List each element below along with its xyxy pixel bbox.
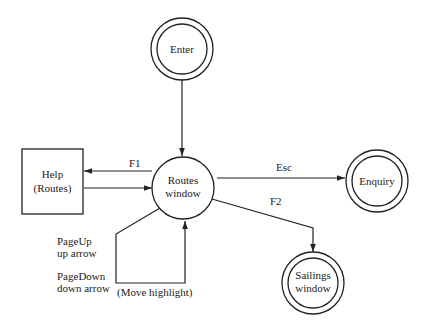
node-routes-window: Routes window xyxy=(152,157,214,219)
edge-routes-to-sailings xyxy=(212,199,313,252)
sailings-label-line1: Sailings xyxy=(295,269,330,281)
node-sailings-window: Sailings window xyxy=(282,252,344,314)
node-enter: Enter xyxy=(151,18,213,80)
state-diagram: Enter Routes window Help (Routes) F1 Esc… xyxy=(0,0,429,328)
loop-label-move-highlight: (Move highlight) xyxy=(117,286,193,299)
sailings-label-line2: window xyxy=(295,282,331,294)
loop-label-pagedown: PageDown xyxy=(57,270,106,282)
help-label-line1: Help xyxy=(42,168,64,180)
edge-label-esc: Esc xyxy=(276,161,292,173)
loop-label-down-arrow: down arrow xyxy=(57,282,110,294)
enter-label: Enter xyxy=(170,43,194,55)
edge-routes-self-loop xyxy=(116,208,185,283)
loop-label-up-arrow: up arrow xyxy=(57,247,96,259)
help-label-line2: (Routes) xyxy=(34,182,72,195)
enquiry-label: Enquiry xyxy=(359,175,395,187)
node-help-routes: Help (Routes) xyxy=(22,149,83,214)
routes-label-line1: Routes xyxy=(168,174,199,186)
edge-label-f2: F2 xyxy=(270,195,282,207)
routes-label-line2: window xyxy=(165,187,201,199)
node-enquiry: Enquiry xyxy=(346,150,408,212)
loop-label-pageup: PageUp xyxy=(57,235,92,247)
edge-label-f1: F1 xyxy=(129,157,141,169)
